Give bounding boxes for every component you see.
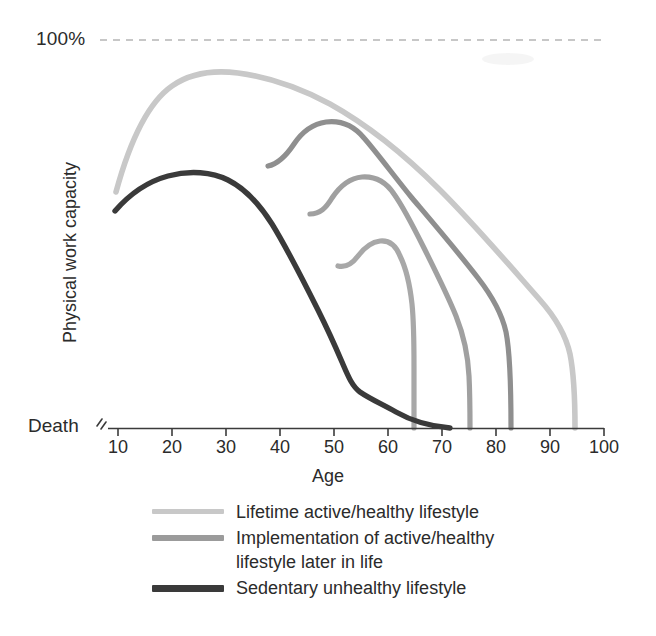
x-tick-label-80: 80 xyxy=(486,437,506,458)
legend-swatch-implementation xyxy=(152,535,224,541)
y-axis-title: Physical work capacity xyxy=(60,123,81,383)
x-tick-label-10: 10 xyxy=(108,437,128,458)
legend-label-implementation-line-1: Implementation of active/healthy xyxy=(236,526,494,550)
x-tick-label-60: 60 xyxy=(378,437,398,458)
curve-implementation-from-47 xyxy=(310,177,470,428)
curve-sedentary xyxy=(115,173,450,428)
legend-label-implementation: Implementation of active/healthy lifesty… xyxy=(236,526,494,574)
x-tick-label-70: 70 xyxy=(432,437,452,458)
x-tick-label-50: 50 xyxy=(324,437,344,458)
scan-artifact xyxy=(482,53,534,65)
legend-item-implementation: Implementation of active/healthy lifesty… xyxy=(152,526,622,574)
legend-label-sedentary: Sedentary unhealthy lifestyle xyxy=(236,576,466,600)
x-tick-label-40: 40 xyxy=(270,437,290,458)
legend-label-lifetime: Lifetime active/healthy lifestyle xyxy=(236,500,479,524)
legend-label-sedentary-line-1: Sedentary unhealthy lifestyle xyxy=(236,576,466,600)
x-axis-title: Age xyxy=(0,466,656,487)
legend-item-lifetime: Lifetime active/healthy lifestyle xyxy=(152,500,622,524)
chart-figure: 100% Physical work capacity Death 10 20 … xyxy=(0,0,656,636)
legend-swatch-sedentary xyxy=(152,585,224,592)
legend-item-sedentary: Sedentary unhealthy lifestyle xyxy=(152,576,622,600)
y-axis-max-label: 100% xyxy=(36,28,85,50)
legend-label-lifetime-line-1: Lifetime active/healthy lifestyle xyxy=(236,500,479,524)
x-tick-label-90: 90 xyxy=(540,437,560,458)
chart-svg xyxy=(0,0,656,470)
chart-legend: Lifetime active/healthy lifestyle Implem… xyxy=(152,500,622,602)
x-tick-label-100: 100 xyxy=(589,437,619,458)
axis-break-icon xyxy=(97,419,106,429)
x-tick-label-30: 30 xyxy=(216,437,236,458)
x-axis-tick-labels: 10 20 30 40 50 60 70 80 90 100 xyxy=(0,437,656,463)
x-tick-label-20: 20 xyxy=(162,437,182,458)
curve-implementation-from-38 xyxy=(268,122,511,428)
legend-swatch-lifetime xyxy=(152,509,224,514)
legend-label-implementation-line-2: lifestyle later in life xyxy=(236,550,494,574)
plot-area xyxy=(0,0,656,470)
y-axis-min-label: Death xyxy=(28,415,79,437)
